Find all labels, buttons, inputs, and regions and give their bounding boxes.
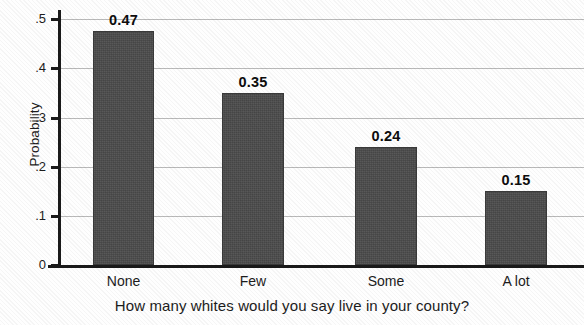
x-tick-label-some: Some [341, 273, 431, 289]
x-axis-title: How many whites would you say live in yo… [0, 297, 584, 314]
y-tick-label-0.2: .2 [20, 160, 46, 173]
y-tick-label-0.3: .3 [20, 111, 46, 124]
bar-a-lot [485, 191, 547, 265]
bar-value-a-lot: 0.15 [476, 172, 556, 188]
x-tick-label-none: None [78, 273, 169, 289]
y-axis-title: Probability [27, 55, 42, 215]
x-tick-label-a-lot: A lot [471, 273, 561, 289]
y-axis-line [58, 10, 61, 266]
bar-value-none: 0.47 [83, 12, 164, 28]
x-tick-label-few: Few [208, 273, 298, 289]
y-tick-label-0.5: .5 [20, 12, 46, 25]
bar-some [355, 147, 417, 265]
bar-value-some: 0.24 [346, 128, 426, 144]
plot-area: .5 .4 .3 .2 .1 0 0.47 0.35 0.24 0.15 Non… [58, 10, 584, 266]
y-tick-label-0.1: .1 [20, 209, 46, 222]
bar-chart-figure: Probability .5 .4 .3 .2 .1 0 0.47 0.35 [0, 0, 584, 325]
bar-few [222, 93, 284, 265]
bar-none [93, 31, 154, 265]
y-tick-label-0: 0 [20, 258, 46, 271]
x-axis-line [48, 265, 584, 268]
bar-value-few: 0.35 [213, 74, 293, 90]
y-tick-label-0.4: .4 [20, 61, 46, 74]
